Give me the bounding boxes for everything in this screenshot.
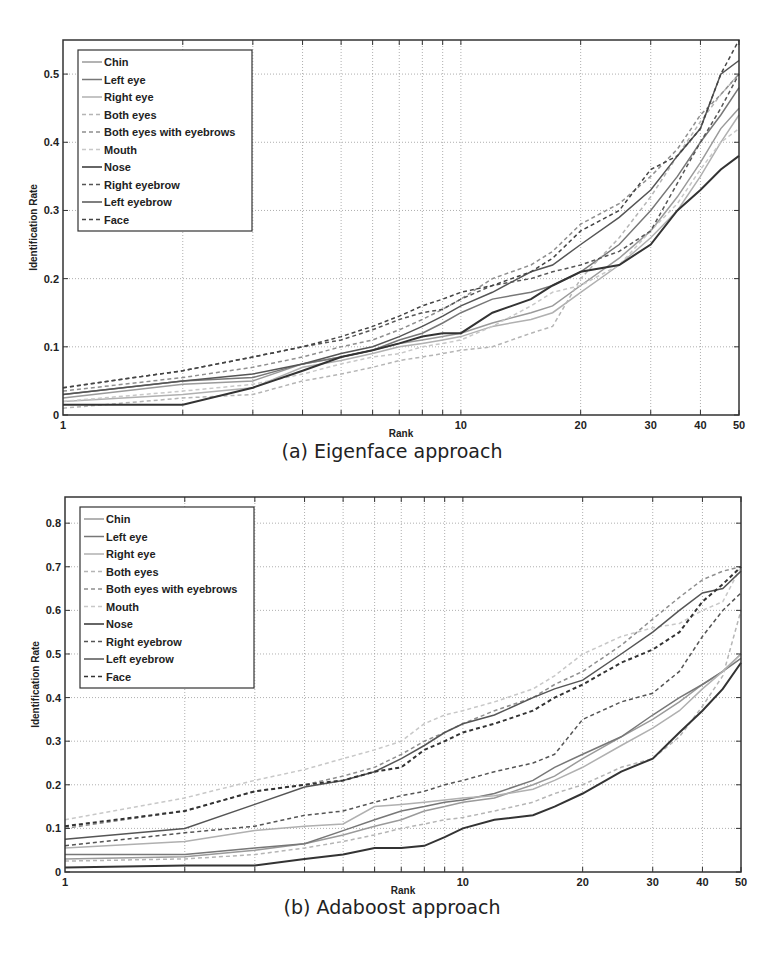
y-tick-label: 0.5 xyxy=(44,68,59,80)
legend-entry: Right eye xyxy=(106,548,156,560)
y-tick-label: 0.4 xyxy=(46,692,62,704)
caption-adaboost: (b) Adaboost approach xyxy=(0,896,784,918)
legend-entry: Right eyebrow xyxy=(104,179,180,191)
legend-entry: Face xyxy=(104,214,129,226)
x-tick-label: 10 xyxy=(455,419,467,431)
legend-entry: Both eyes with eyebrows xyxy=(104,126,235,138)
y-tick-label: 0.1 xyxy=(46,822,61,834)
y-tick-label: 0.1 xyxy=(44,341,59,353)
legend-entry: Mouth xyxy=(104,144,137,156)
legend: ChinLeft eyeRight eyeBoth eyesBoth eyes … xyxy=(80,507,254,688)
y-tick-label: 0.7 xyxy=(46,561,61,573)
legend-entry: Right eye xyxy=(104,91,154,103)
x-tick-label: 50 xyxy=(733,419,745,431)
legend-entry: Nose xyxy=(106,618,133,630)
y-axis-label: Identification Rate xyxy=(28,184,39,271)
legend: ChinLeft eyeRight eyeBoth eyesBoth eyes … xyxy=(78,50,252,231)
legend-entry: Left eyebrow xyxy=(104,196,172,208)
x-tick-label: 30 xyxy=(647,876,659,888)
x-tick-label: 40 xyxy=(696,876,708,888)
x-tick-label: 30 xyxy=(645,419,657,431)
x-axis-label: Rank xyxy=(391,885,416,896)
y-tick-label: 0.2 xyxy=(44,273,59,285)
legend-entry: Nose xyxy=(104,161,131,173)
y-tick-label: 0.8 xyxy=(46,517,61,529)
x-tick-label: 40 xyxy=(694,419,706,431)
y-tick-label: 0.3 xyxy=(44,204,59,216)
chart-adaboost: 11020304050Rank00.10.20.30.40.50.60.70.8… xyxy=(0,478,784,961)
caption-eigenface: (a) Eigenface approach xyxy=(0,440,784,462)
y-tick-label: 0.3 xyxy=(46,735,61,747)
y-axis-label: Identification Rate xyxy=(30,641,41,728)
chart-eigenface: 11020304050Rank00.10.20.30.40.5Identific… xyxy=(0,0,784,475)
legend-entry: Chin xyxy=(106,513,131,525)
legend-entry: Both eyes xyxy=(104,109,157,121)
x-tick-label: 10 xyxy=(457,876,469,888)
x-tick-label: 20 xyxy=(577,876,589,888)
y-tick-label: 0.6 xyxy=(46,604,61,616)
legend-entry: Face xyxy=(106,671,131,683)
x-tick-label: 50 xyxy=(735,876,747,888)
x-tick-label: 1 xyxy=(62,876,68,888)
x-tick-label: 20 xyxy=(575,419,587,431)
figure-adaboost: 11020304050Rank00.10.20.30.40.50.60.70.8… xyxy=(0,478,784,961)
y-tick-label: 0.4 xyxy=(44,136,60,148)
legend-entry: Left eye xyxy=(106,531,148,543)
y-tick-label: 0.5 xyxy=(46,648,61,660)
legend-entry: Left eye xyxy=(104,74,146,86)
y-tick-label: 0.2 xyxy=(46,779,61,791)
y-tick-label: 0 xyxy=(55,866,61,878)
legend-entry: Chin xyxy=(104,56,129,68)
legend-entry: Left eyebrow xyxy=(106,653,174,665)
x-axis-label: Rank xyxy=(389,428,414,439)
figure-eigenface: 11020304050Rank00.10.20.30.40.5Identific… xyxy=(0,0,784,475)
legend-entry: Both eyes xyxy=(106,566,159,578)
y-tick-label: 0 xyxy=(53,409,59,421)
x-tick-label: 1 xyxy=(60,419,66,431)
legend-entry: Right eyebrow xyxy=(106,636,182,648)
legend-entry: Both eyes with eyebrows xyxy=(106,583,237,595)
legend-entry: Mouth xyxy=(106,601,139,613)
